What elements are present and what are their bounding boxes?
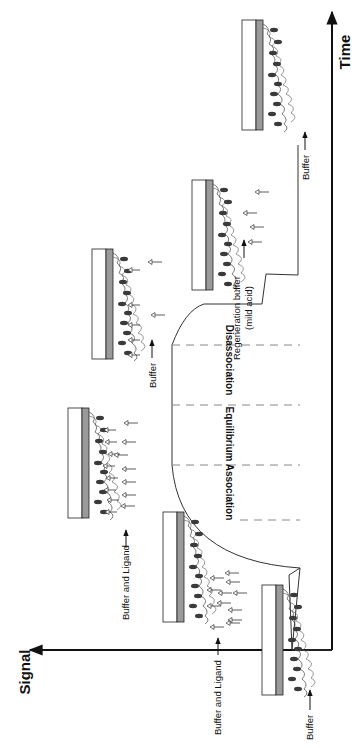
sensor-chip-regeneration — [192, 180, 245, 292]
phase-label-equilibrium: Equilibrium — [224, 407, 235, 462]
injection-label-buffer-3: Buffer — [300, 155, 311, 180]
sensor-chip-baseline — [262, 585, 315, 697]
phase-label-association: Association — [224, 464, 235, 521]
free-ligands-dissociation — [148, 260, 165, 318]
injection-label-regeneration: Regeneration buffer — [231, 276, 242, 360]
injection-label-regeneration-sub: (mild acid) — [243, 286, 254, 330]
free-ligands — [207, 571, 247, 630]
sensor-chip-equilibrium — [68, 408, 121, 520]
free-ligands-equilibrium — [114, 421, 138, 509]
injection-label-buffer-2: Buffer — [147, 363, 158, 388]
signal-axis-label: Signal — [16, 649, 33, 694]
time-axis-label: Time — [336, 35, 353, 70]
injection-label-buffer-ligand-2: Buffer and Ligand — [120, 545, 131, 620]
free-ligands-regeneration — [243, 190, 269, 245]
injection-label-buffer-1: Buffer — [304, 715, 315, 740]
injection-label-buffer-ligand-1: Buffer and Ligand — [212, 660, 223, 735]
sensor-chip-return — [242, 20, 295, 132]
sensorgram-diagram: Signal Time Association Equilibrium Disa… — [0, 0, 356, 748]
sensor-chip-association — [163, 512, 216, 624]
